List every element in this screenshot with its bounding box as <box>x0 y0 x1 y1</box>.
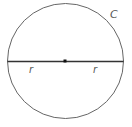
radius-label-left: r <box>29 64 34 75</box>
center-dot <box>64 60 67 63</box>
circle-label-c: C <box>110 8 118 21</box>
radius-label-right: r <box>93 64 98 75</box>
circle-diagram: C r r <box>0 0 132 127</box>
